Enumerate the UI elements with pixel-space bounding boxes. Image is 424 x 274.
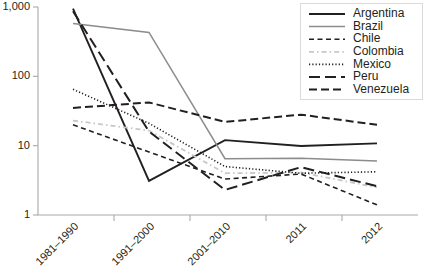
- y-axis-labels: 1101001,000: [2, 0, 30, 220]
- chart-legend: ArgentinaBrazilChileColombiaMexicoPeruVe…: [301, 4, 423, 100]
- legend-label-venezuela: Venezuela: [353, 82, 409, 96]
- x-tick-label: 1991–2000: [109, 220, 156, 267]
- y-axis-ticks: [33, 7, 38, 215]
- series-line-chile: [73, 125, 377, 205]
- y-tick-label: 1,000: [2, 0, 30, 12]
- y-tick-label: 10: [18, 139, 30, 151]
- x-axis-labels: 1981–19901991–20002001–201020112012: [33, 220, 384, 267]
- x-tick-label: 2012: [359, 220, 385, 246]
- line-chart: 1101001,000 1981–19901991–20002001–20102…: [0, 0, 424, 274]
- chart-container: 1101001,000 1981–19901991–20002001–20102…: [0, 0, 424, 274]
- y-tick-label: 1: [24, 208, 30, 220]
- x-tick-label: 2011: [283, 220, 308, 245]
- y-tick-label: 100: [12, 69, 30, 81]
- x-tick-label: 1981–1990: [33, 220, 80, 267]
- x-tick-label: 2001–2010: [185, 220, 232, 267]
- x-axis-ticks: [114, 215, 342, 221]
- series-line-colombia: [73, 121, 377, 188]
- series-line-mexico: [73, 89, 377, 173]
